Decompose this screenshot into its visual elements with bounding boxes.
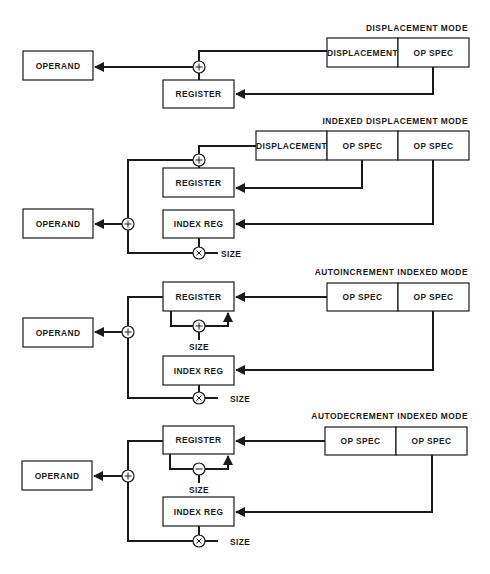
multiply-icon [193,247,205,259]
index-reg-label: INDEX REG [174,366,224,376]
field-label: OP SPEC [343,292,383,302]
plus-icon [122,326,134,338]
field-label: OP SPEC [412,436,452,446]
plus-icon [193,154,205,166]
field-label: DISPLACEMENT [256,141,327,151]
field-label: DISPLACEMENT [327,48,398,58]
plus-icon [193,320,205,332]
size-label: SIZE [221,249,241,259]
decrement-loop-out [205,456,228,469]
displacement-wire [199,146,256,154]
index-reg-label: INDEX REG [174,219,224,229]
register-label: REGISTER [175,435,221,445]
opspec-to-index-arrow [236,455,432,512]
increment-loop-out [205,313,228,326]
register-label: REGISTER [175,178,221,188]
plus-icon [122,470,134,482]
field-label: OP SPEC [343,141,383,151]
mode-autoincrement-indexed: AUTOINCREMENT INDEXED MODE OP SPEC OP SP… [23,267,469,404]
register-output-wire [128,297,163,326]
operand-label: OPERAND [36,219,81,229]
register-label: REGISTER [175,292,221,302]
addressing-modes-diagram: DISPLACEMENT MODE DISPLACEMENT OP SPEC O… [0,0,490,574]
mode-title: INDEXED DISPLACEMENT MODE [322,116,468,126]
index-reg-label: INDEX REG [174,507,224,517]
displacement-wire [199,51,327,61]
instruction-format: OP SPEC OP SPEC [325,427,467,455]
field-label: OP SPEC [341,436,381,446]
size-label: SIZE [230,537,250,547]
field-label: OP SPEC [414,292,454,302]
register-output-wire [128,441,163,470]
operand-label: OPERAND [36,328,81,338]
decrement-loop-in [170,454,193,469]
opspec-to-index-arrow [236,160,433,224]
multiply-icon [193,535,205,547]
mode-indexed-displacement: INDEXED DISPLACEMENT MODE DISPLACEMENT O… [23,116,469,259]
opspec-to-register-arrow [236,160,362,188]
field-label: OP SPEC [414,141,454,151]
mode-displacement: DISPLACEMENT MODE DISPLACEMENT OP SPEC O… [23,23,469,108]
increment-loop-in [171,311,193,326]
instruction-format: DISPLACEMENT OP SPEC OP SPEC [256,131,469,160]
opspec-to-index-arrow [236,311,433,370]
plus-icon [193,61,205,73]
plus-icon [122,218,134,230]
instruction-format: DISPLACEMENT OP SPEC [327,38,469,67]
size-label: SIZE [230,394,250,404]
operand-label: OPERAND [35,471,80,481]
loop-size-label: SIZE [189,342,209,352]
instruction-format: OP SPEC OP SPEC [327,283,469,311]
mode-title: AUTODECREMENT INDEXED MODE [311,411,468,421]
multiply-icon [193,392,205,404]
opspec-to-register-arrow [236,67,433,94]
loop-size-label: SIZE [189,485,209,495]
mode-title: AUTOINCREMENT INDEXED MODE [315,267,468,277]
operand-label: OPERAND [36,61,81,71]
mode-title: DISPLACEMENT MODE [366,23,468,33]
field-label: OP SPEC [414,48,454,58]
minus-icon [193,463,205,475]
register-label: REGISTER [175,89,221,99]
mode-autodecrement-indexed: AUTODECREMENT INDEXED MODE OP SPEC OP SP… [22,411,468,547]
